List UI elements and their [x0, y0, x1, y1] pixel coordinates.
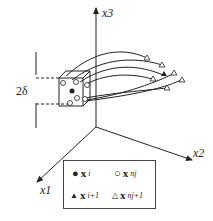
dimension-label: 2δ — [16, 84, 28, 99]
legend-item: ○ xnj — [114, 167, 136, 179]
x1-label: x1 — [40, 183, 51, 198]
filled-point — [70, 89, 75, 94]
filled-triangle-icon: ▲ — [70, 191, 78, 200]
legend: ● xi ○ xnj ▲ xi+1 △ xnj+1 — [63, 160, 156, 209]
diagram: x3 x2 x1 2δ ● xi ○ xnj ▲ xi+1 △ xnj+1 — [0, 0, 213, 221]
legend-item: ● xi — [72, 167, 90, 179]
x3-label: x3 — [102, 6, 113, 21]
open-triangle-icon: △ — [112, 191, 118, 200]
filled-circle-icon: ● — [72, 167, 79, 179]
x2-axis — [96, 127, 192, 160]
open-circle-icon: ○ — [114, 167, 121, 179]
filled-triangle-point — [161, 71, 167, 76]
legend-item: △ xnj+1 — [112, 189, 143, 201]
x2-label: x2 — [193, 146, 204, 161]
legend-item: ▲ xi+1 — [70, 189, 99, 201]
